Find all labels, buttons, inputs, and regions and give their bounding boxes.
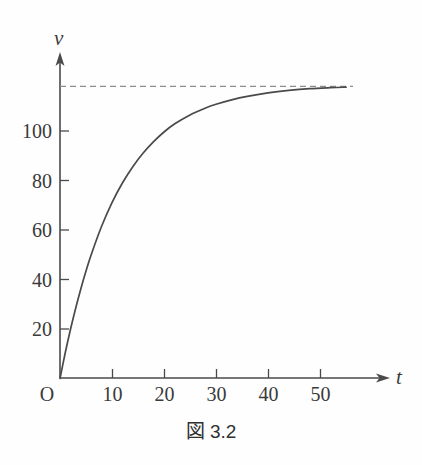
x-tick-label-30: 30 xyxy=(207,384,227,404)
y-axis-label: v xyxy=(54,28,63,49)
x-tick-label-20: 20 xyxy=(155,384,175,404)
y-tick-label-100: 100 xyxy=(22,121,52,141)
y-tick-label-20: 20 xyxy=(32,319,52,339)
y-tick-label-80: 80 xyxy=(32,171,52,191)
x-axis-label: t xyxy=(396,367,402,388)
x-tick-label-40: 40 xyxy=(259,384,279,404)
velocity-curve xyxy=(60,87,346,378)
y-tick-label-40: 40 xyxy=(32,270,52,290)
figure-container: 100 80 60 40 20 10 20 30 40 50 O v t 図 3… xyxy=(0,0,422,465)
x-tick-label-10: 10 xyxy=(103,384,123,404)
figure-caption: 図 3.2 xyxy=(0,421,422,444)
y-tick-label-60: 60 xyxy=(32,220,52,240)
origin-label: O xyxy=(40,384,54,404)
x-tick-label-50: 50 xyxy=(311,384,331,404)
